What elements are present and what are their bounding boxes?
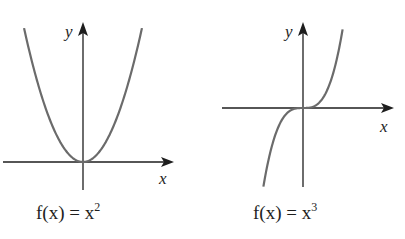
- function-graphs-figure: y x f(x) = x2 y x f(x) = x3: [0, 0, 405, 239]
- caption-exponent: 3: [311, 200, 317, 214]
- x-axis-label: x: [379, 117, 388, 136]
- cubic-caption: f(x) = x3: [253, 200, 317, 224]
- parabola-plot: y x f(x) = x2: [3, 22, 174, 224]
- x-axis-label: x: [158, 169, 167, 188]
- cubic-plot: y x f(x) = x3: [222, 22, 394, 224]
- caption-exponent: 2: [94, 200, 100, 214]
- y-axis-label: y: [283, 22, 293, 41]
- parabola-caption: f(x) = x2: [36, 200, 100, 224]
- caption-prefix: f(x) = x: [36, 202, 95, 224]
- y-axis-label: y: [63, 22, 73, 41]
- caption-prefix: f(x) = x: [253, 202, 312, 224]
